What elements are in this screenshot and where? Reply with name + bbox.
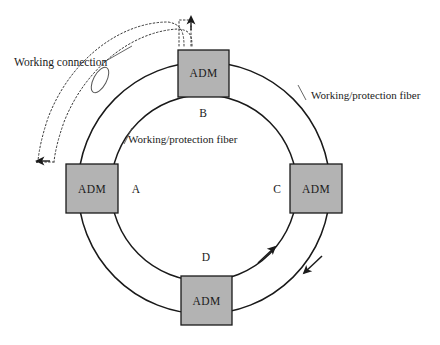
node-letter-a: A (132, 183, 141, 195)
working-connection-label: Working connection (14, 56, 108, 69)
node-letter-d: D (202, 251, 210, 263)
adm-node-b-label: ADM (189, 67, 217, 79)
ellipse-marker-icon (88, 65, 113, 96)
adm-node-a[interactable]: ADM A (66, 164, 141, 213)
node-letter-c: C (273, 183, 281, 195)
inner-fiber-label: Working/protection fiber (128, 133, 238, 145)
adm-node-c-label: ADM (302, 183, 330, 195)
adm-node-d-label: ADM (192, 295, 220, 307)
adm-node-c[interactable]: ADM C (273, 164, 342, 213)
adm-node-b[interactable]: ADM B (178, 50, 229, 119)
outer-fiber-label: Working/protection fiber (311, 89, 421, 101)
outer-ring-direction-arrow (304, 256, 322, 273)
outer-fiber-label-leader (298, 85, 306, 100)
working-connection-pointer (88, 46, 132, 95)
adm-node-d[interactable]: ADM D (181, 251, 232, 325)
diagram-canvas: ADM B ADM A ADM C ADM D Working connecti… (0, 0, 440, 345)
inner-ring-direction-arrow (258, 247, 275, 263)
adm-node-a-label: ADM (78, 183, 106, 195)
ring-network-diagram: ADM B ADM A ADM C ADM D Working connecti… (0, 0, 440, 345)
node-letter-b: B (199, 107, 207, 119)
